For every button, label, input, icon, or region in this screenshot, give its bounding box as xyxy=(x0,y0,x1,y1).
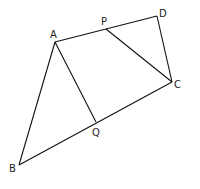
label-q: Q xyxy=(92,127,100,138)
label-b: B xyxy=(9,163,16,174)
segment-cb xyxy=(19,82,172,165)
segment-ba xyxy=(19,42,55,165)
label-d: D xyxy=(159,8,167,19)
label-c: C xyxy=(174,79,181,90)
label-p: P xyxy=(101,16,107,27)
segment-aq xyxy=(55,42,96,122)
label-a: A xyxy=(50,29,57,40)
geometry-diagram: A P D C Q B xyxy=(0,0,200,189)
